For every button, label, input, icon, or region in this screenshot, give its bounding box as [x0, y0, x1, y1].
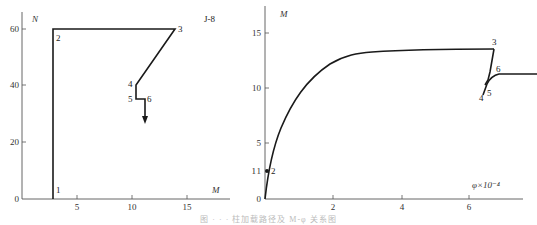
right-ytick-1: 1: [257, 166, 262, 176]
point-marker: [265, 169, 269, 173]
specimen-tag: J-8: [204, 14, 215, 24]
right-ytick-10: 10: [252, 83, 262, 93]
left-xlabel: M: [211, 185, 220, 195]
left-ytick-60: 60: [10, 24, 20, 34]
left-ytick-0: 0: [15, 194, 20, 204]
m-phi-curve: [265, 49, 494, 199]
left-ylabel: N: [31, 14, 39, 24]
left-xtick-10: 10: [128, 202, 138, 212]
right-pt-5: 5: [487, 88, 492, 98]
right-xtick-4: 4: [400, 202, 405, 212]
right-pt-2: 2: [271, 166, 276, 176]
left-pt-1: 1: [56, 185, 61, 195]
loading-path: [53, 29, 175, 199]
right-ytick-15: 15: [252, 28, 262, 38]
right-xlabel: φ×10⁻⁴: [472, 180, 500, 190]
figure-caption: 图 · · · 柱加载路径及 M-φ 关系图: [0, 213, 537, 224]
left-pt-3: 3: [178, 24, 183, 34]
right-pt-6: 6: [496, 64, 501, 74]
right-ylabel: M: [279, 9, 288, 19]
right-pt-1: 1: [252, 166, 257, 176]
right-xtick-2: 2: [331, 202, 336, 212]
left-pt-6: 6: [147, 94, 152, 104]
left-chart: 0 20 40 60 5 10 15 N M J-8 1 2 3 4 5 6: [10, 12, 230, 212]
left-pt-5: 5: [128, 94, 133, 104]
right-ytick-5: 5: [257, 138, 262, 148]
left-pt-2: 2: [56, 33, 61, 43]
arrow-down-icon: [142, 116, 148, 124]
right-chart: 0 1 5 10 15 2 4 6 M φ×10⁻⁴ 1 2 3 4 5 6: [252, 6, 537, 212]
left-ytick-40: 40: [10, 80, 20, 90]
left-xtick-15: 15: [183, 202, 193, 212]
left-pt-4: 4: [128, 79, 133, 89]
figure: 0 20 40 60 5 10 15 N M J-8 1 2 3 4 5 6 0…: [0, 0, 537, 225]
right-ytick-0: 0: [257, 194, 262, 204]
left-xtick-5: 5: [75, 202, 80, 212]
left-ytick-20: 20: [10, 137, 20, 147]
right-xtick-6: 6: [467, 202, 472, 212]
right-pt-3: 3: [492, 37, 497, 47]
right-pt-4: 4: [479, 93, 484, 103]
